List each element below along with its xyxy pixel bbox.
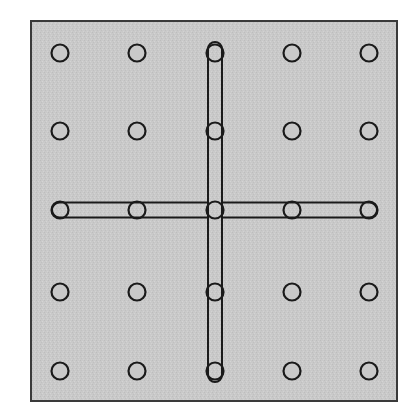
vertical-bar[interactable] — [208, 42, 222, 382]
peg-hole[interactable] — [284, 45, 301, 62]
peg-hole[interactable] — [361, 284, 378, 301]
peg-hole[interactable] — [52, 284, 69, 301]
peg-hole[interactable] — [361, 45, 378, 62]
pegboard-figure — [0, 0, 416, 418]
figure-canvas — [0, 0, 416, 418]
peg-hole[interactable] — [129, 284, 146, 301]
peg-hole[interactable] — [361, 363, 378, 380]
peg-hole[interactable] — [129, 363, 146, 380]
vertical-bar-body — [208, 42, 222, 382]
peg-hole[interactable] — [361, 123, 378, 140]
peg-hole[interactable] — [284, 363, 301, 380]
peg-hole[interactable] — [52, 363, 69, 380]
peg-hole[interactable] — [52, 45, 69, 62]
peg-hole[interactable] — [52, 123, 69, 140]
peg-hole[interactable] — [284, 284, 301, 301]
peg-hole[interactable] — [129, 123, 146, 140]
peg-hole[interactable] — [284, 123, 301, 140]
peg-hole[interactable] — [129, 45, 146, 62]
